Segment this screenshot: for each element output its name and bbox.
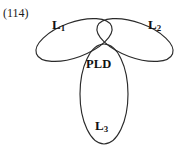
node-label-l2-subscript: 2	[157, 23, 161, 33]
node-label-l1-base: L	[52, 17, 61, 32]
node-label-l3: L3	[95, 119, 108, 134]
node-label-l2: L2	[148, 18, 161, 33]
center-region-label: PLD	[86, 58, 112, 71]
node-label-l1: L1	[52, 18, 65, 33]
figure-canvas: (114) L1 L2 L3 PLD	[0, 0, 182, 151]
node-label-l2-base: L	[148, 17, 157, 32]
node-label-l1-subscript: 1	[61, 23, 65, 33]
node-label-l3-subscript: 3	[104, 124, 108, 134]
node-label-l3-base: L	[95, 118, 104, 133]
